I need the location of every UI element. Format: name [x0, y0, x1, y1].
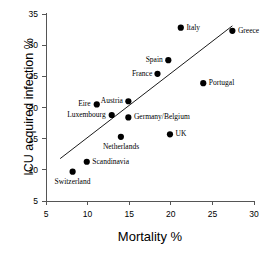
data-point: [178, 25, 184, 31]
data-point-label: Italy: [186, 24, 200, 32]
y-tick-label: 30: [12, 40, 38, 50]
y-tick-label: 5: [12, 196, 38, 206]
data-point-label: Switzerland: [55, 178, 91, 186]
data-point-label: Netherlands: [103, 143, 139, 151]
data-point-label: Germany/Belgium: [134, 113, 190, 121]
x-axis-title: Mortality %: [46, 229, 254, 244]
data-point: [167, 131, 173, 137]
y-tick-label: 35: [12, 9, 38, 19]
x-tick-label: 20: [158, 209, 184, 219]
data-point: [94, 101, 100, 107]
data-point-label: UK: [176, 130, 187, 138]
data-point-label: Luxembourg: [67, 111, 106, 119]
scatter-chart: ICU acquired infection % Mortality % 510…: [0, 0, 269, 256]
data-point: [229, 28, 235, 34]
data-points: [70, 25, 236, 175]
data-point: [70, 169, 76, 175]
data-point-label: Austria: [101, 97, 123, 105]
data-point-label: Portugal: [209, 79, 234, 87]
data-point: [165, 57, 171, 63]
data-point: [109, 112, 115, 118]
y-tick-label: 25: [12, 71, 38, 81]
x-tick-label: 25: [199, 209, 225, 219]
data-point-label: France: [132, 70, 152, 78]
data-point: [125, 98, 131, 104]
y-tick-label: 10: [12, 165, 38, 175]
data-point: [154, 71, 160, 77]
data-point-label: Spain: [146, 56, 163, 64]
data-point: [84, 159, 90, 165]
data-point: [200, 80, 206, 86]
y-tick-label: 15: [12, 134, 38, 144]
x-tick-label: 15: [116, 209, 142, 219]
data-point-label: Greece: [238, 27, 259, 35]
x-tick-label: 5: [33, 209, 59, 219]
data-point: [118, 134, 124, 140]
y-tick-label: 20: [12, 103, 38, 113]
x-tick-label: 30: [241, 209, 267, 219]
trendline: [60, 26, 232, 159]
data-point-label: Scandinavia: [92, 158, 129, 166]
x-tick-label: 10: [75, 209, 101, 219]
data-point: [125, 114, 131, 120]
data-point-label: Eire: [78, 100, 91, 108]
